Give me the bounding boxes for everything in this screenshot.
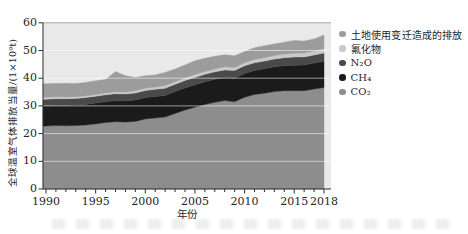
- co2-series-marker-icon: [339, 89, 346, 96]
- legend: 土地使用变迁造成的排放 氟化物 N₂O CH₄ CO₂: [339, 27, 463, 99]
- legend-item-fgas: 氟化物: [339, 41, 463, 55]
- legend-item-co2: CO₂: [339, 85, 463, 99]
- legend-label: 土地使用变迁造成的排放: [351, 27, 463, 42]
- fgas-series-marker-icon: [339, 45, 346, 52]
- landuse-series-marker-icon: [339, 31, 346, 38]
- legend-label: CO₂: [351, 86, 371, 97]
- legend-label: CH₄: [351, 72, 372, 83]
- legend-item-ch4: CH₄: [339, 70, 463, 84]
- ghg-emissions-figure: 0102030405060199019952000200520102015201…: [0, 0, 468, 234]
- x-axis-title: 年份: [177, 206, 197, 221]
- y-axis-title: 全球温室气体排放当量/(1×10⁹t): [5, 39, 19, 187]
- legend-item-n2o: N₂O: [339, 56, 463, 70]
- legend-item-landuse: 土地使用变迁造成的排放: [339, 27, 463, 41]
- legend-label: N₂O: [351, 57, 373, 68]
- legend-label: 氟化物: [351, 41, 382, 56]
- n2o-series-marker-icon: [339, 60, 346, 67]
- ch4-series-marker-icon: [339, 74, 346, 81]
